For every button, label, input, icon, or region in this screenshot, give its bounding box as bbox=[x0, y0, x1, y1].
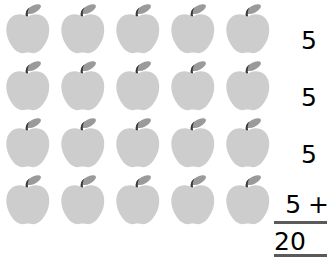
apple-icon bbox=[113, 2, 163, 57]
worksheet-page: 5555+20 bbox=[0, 0, 329, 265]
apple-icon bbox=[58, 116, 108, 171]
apple-array bbox=[0, 0, 280, 232]
addend-value: 5 bbox=[301, 140, 317, 169]
apple-icon bbox=[3, 116, 53, 171]
apple-icon bbox=[223, 2, 273, 57]
apple-icon bbox=[58, 173, 108, 228]
apple-row bbox=[0, 2, 280, 59]
addend-value: 5 bbox=[301, 83, 317, 112]
apple-row bbox=[0, 173, 280, 230]
apple-icon bbox=[3, 173, 53, 228]
apple-icon bbox=[168, 59, 218, 114]
addend-4: 5+ bbox=[272, 192, 329, 217]
apple-icon bbox=[223, 59, 273, 114]
sum-total: 20 bbox=[274, 229, 319, 254]
addend-value: 5 bbox=[301, 26, 317, 55]
apple-icon bbox=[168, 173, 218, 228]
apple-icon bbox=[113, 59, 163, 114]
addition-column: 5555+20 bbox=[272, 0, 329, 265]
apple-icon bbox=[223, 116, 273, 171]
apple-icon bbox=[3, 2, 53, 57]
addend-2: 5 bbox=[272, 85, 317, 110]
apple-icon bbox=[113, 173, 163, 228]
addend-1: 5 bbox=[272, 28, 317, 53]
addend-value: 5 bbox=[285, 190, 301, 219]
apple-row bbox=[0, 59, 280, 116]
sum-rule-bottom bbox=[274, 254, 327, 257]
apple-icon bbox=[168, 116, 218, 171]
apple-row bbox=[0, 116, 280, 173]
apple-icon bbox=[223, 173, 273, 228]
apple-icon bbox=[3, 59, 53, 114]
sum-rule-top bbox=[274, 221, 327, 224]
apple-icon bbox=[58, 2, 108, 57]
plus-sign: + bbox=[308, 192, 329, 217]
apple-icon bbox=[113, 116, 163, 171]
apple-icon bbox=[168, 2, 218, 57]
apple-icon bbox=[58, 59, 108, 114]
addend-3: 5 bbox=[272, 142, 317, 167]
